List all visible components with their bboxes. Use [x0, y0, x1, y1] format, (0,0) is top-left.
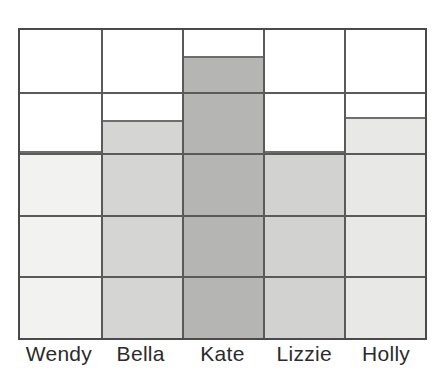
gridline-horizontal [20, 153, 425, 155]
x-tick-label-holly: Holly [345, 342, 427, 366]
x-tick-label-wendy: Wendy [18, 342, 100, 366]
bar-kate [182, 56, 263, 338]
bar-wendy [20, 151, 101, 338]
gridline-vertical [344, 30, 346, 338]
bar-lizzie [263, 151, 344, 338]
plot-area [18, 28, 427, 340]
plot-inner [20, 30, 425, 338]
bar-column-wendy [20, 30, 101, 338]
gridline-vertical [101, 30, 103, 338]
bar-column-kate [182, 30, 263, 338]
bar-column-bella [101, 30, 182, 338]
gridline-vertical [263, 30, 265, 338]
x-tick-label-lizzie: Lizzie [263, 342, 345, 366]
bar-holly [344, 117, 425, 338]
gridline-horizontal [20, 276, 425, 278]
gridline-horizontal [20, 92, 425, 94]
gridline-vertical [182, 30, 184, 338]
x-axis: Wendy Bella Kate Lizzie Holly [18, 342, 427, 382]
bar-column-holly [344, 30, 425, 338]
x-tick-label-bella: Bella [100, 342, 182, 366]
chart-root: Wendy Bella Kate Lizzie Holly [0, 0, 443, 384]
x-tick-label-kate: Kate [182, 342, 264, 366]
bar-column-lizzie [263, 30, 344, 338]
gridline-horizontal [20, 215, 425, 217]
